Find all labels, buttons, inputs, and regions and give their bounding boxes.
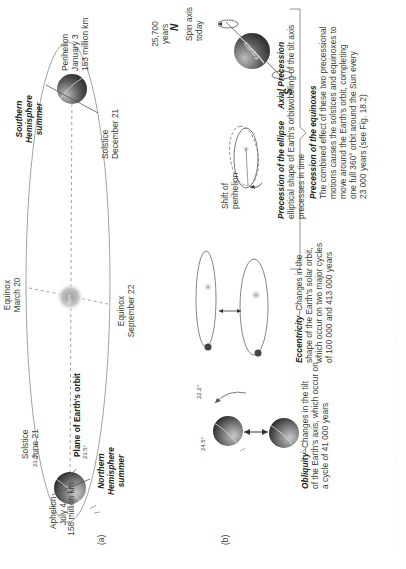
plane-of-orbit-label: Plane of Earth's orbit <box>72 373 82 457</box>
precession-period-label: 25,700 years <box>150 19 170 49</box>
obliquity-angle-min: 22.2° <box>196 385 203 399</box>
aphelion-distance: 158 million km <box>66 479 76 539</box>
milankovitch-figure: (a) (b) Sun Aphelion July 4 158 million … <box>0 0 406 569</box>
obliquity-earths <box>213 392 306 453</box>
sun-label: Sun <box>66 294 73 305</box>
axial-precession-description: Axial Precession wobbling of the tilt ax… <box>276 25 296 109</box>
obliquity-description: Obliquity–Changes in the tilt of the Ear… <box>300 362 330 489</box>
panel-a-label: (a) <box>96 535 106 545</box>
northern-summer-label: Northern Hemisphere summer <box>96 441 126 501</box>
southern-summer-label: Southern Hemisphere summer <box>14 89 44 149</box>
perihelion-label: Perihelion January 3 153 million km <box>60 17 90 71</box>
eccentricity-description: Eccentricity–Changes in the shape of the… <box>294 243 334 363</box>
equinox-september-label: Equinox September 22 <box>116 281 136 341</box>
aphelion-label: Aphelion July 4 <box>48 499 68 529</box>
obliquity-angle-max: 24.5° <box>200 437 207 451</box>
solstice-december-label: Solstice December 21 <box>100 109 120 159</box>
shift-of-perihelion-label: Shift of perihelion <box>220 173 240 209</box>
solstice-angle: 23.5° <box>32 453 39 467</box>
precession-ellipse-description: Precession of the ellipse elliptical sha… <box>276 108 306 219</box>
panel-b-label: (b) <box>220 535 230 545</box>
north-pole-label: N <box>170 24 180 31</box>
equinox-march-label: Equinox March 20 <box>2 275 22 315</box>
eccentricity-ellipses <box>196 251 268 357</box>
spin-axis-label: Spin axis today <box>184 7 204 41</box>
earth-perihelion-icon <box>46 74 98 113</box>
plane-angle: 23.5° <box>82 445 89 459</box>
faint-caption: · · · · · · · · · · · · · · · · · · · · … <box>392 9 400 549</box>
precession-equinoxes-description: Precession of the equinoxes The combined… <box>308 26 368 199</box>
